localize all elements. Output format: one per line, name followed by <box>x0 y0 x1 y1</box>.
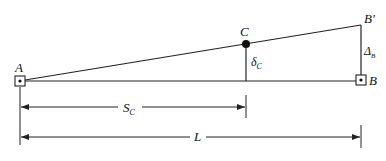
beam-diagram: SC L A B B' C δC ΔB <box>0 0 386 161</box>
chord-a-bprime <box>25 25 361 80</box>
support-b-icon <box>356 75 366 85</box>
label-c: C <box>240 24 249 39</box>
support-a-icon <box>15 76 25 86</box>
point-c <box>242 40 250 48</box>
label-delta-c: δC <box>251 55 263 71</box>
label-b: B <box>369 73 377 88</box>
label-a: A <box>14 60 23 75</box>
label-b-prime: B' <box>364 11 375 26</box>
label-l: L <box>193 129 201 144</box>
label-delta-b: ΔB <box>363 44 376 60</box>
label-sc: SC <box>123 100 136 117</box>
